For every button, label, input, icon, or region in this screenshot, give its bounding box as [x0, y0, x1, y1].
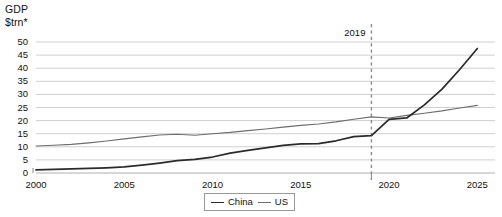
x-axis-tick-label: 2000: [16, 180, 56, 190]
series-line-us: [36, 105, 477, 146]
legend-item-china[interactable]: China: [211, 197, 253, 207]
y-axis-tick-label: 25: [2, 103, 28, 113]
legend-label-china: China: [228, 197, 253, 207]
legend-swatch-china-icon: [211, 202, 224, 203]
legend-label-us: US: [275, 197, 288, 207]
legend-swatch-us-icon: [258, 202, 271, 203]
y-axis-tick-label: 40: [2, 63, 28, 73]
y-axis-tick-label: 10: [2, 142, 28, 152]
y-axis-tick-label: 5: [2, 155, 28, 165]
y-axis-tick-label: 15: [2, 129, 28, 139]
gdp-line-chart: GDP $trn* 05101520253035404550 200020052…: [0, 0, 502, 217]
y-axis-tick-label: 35: [2, 76, 28, 86]
x-axis-tick-label: 2005: [104, 180, 144, 190]
gridlines: [36, 42, 495, 173]
series-line-china: [36, 49, 477, 170]
marker-2019-label: 2019: [323, 28, 365, 38]
y-axis-tick-label: 50: [2, 37, 28, 47]
y-axis-tick-label: 20: [2, 116, 28, 126]
plot-area: [0, 0, 502, 217]
y-axis-tick-label: 45: [2, 50, 28, 60]
x-axis-tick-label: 2020: [369, 180, 409, 190]
legend-item-us[interactable]: US: [258, 197, 288, 207]
x-axis-tick-label: 2015: [281, 180, 321, 190]
y-axis-tick-label: 0: [2, 168, 28, 178]
chart-legend: China US: [204, 193, 295, 211]
y-axis-tick-label: 30: [2, 89, 28, 99]
x-axis-tick-label: 2025: [457, 180, 497, 190]
x-axis-tick-label: 2010: [193, 180, 233, 190]
